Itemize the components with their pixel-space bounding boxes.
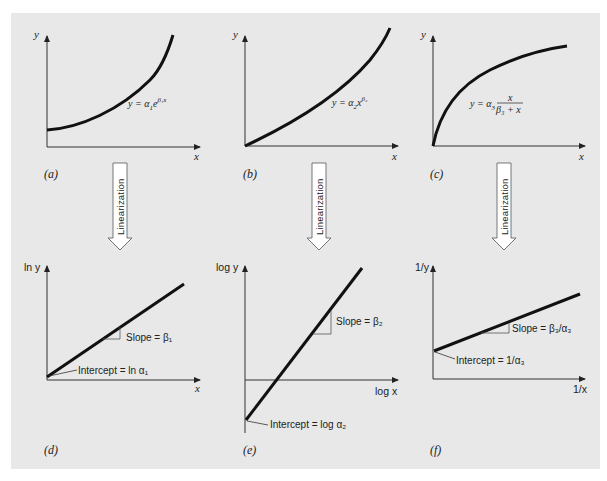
equation: y = α1eβ₁x [127,96,167,112]
intercept-pointer [247,421,268,425]
linearization-diagram: y x y = α1eβ₁x (a) y x y = α2xβ₂ (b) y x… [0,0,607,481]
linear-fit-line [246,268,362,420]
panel-f: 1/y 1/x Slope = β₃/α₃ Intercept = 1/α₃ (… [415,261,588,457]
saturation-curve [433,46,567,146]
x-axis-label: x [194,382,200,394]
y-axis-label: ln y [24,261,41,273]
svg-text:Linearization: Linearization [499,179,510,235]
panel-label: (c) [430,167,443,181]
linearization-arrow-a: Linearization [108,163,132,250]
x-axis-label: x [193,150,199,162]
x-axis-label: log x [375,385,398,397]
panel-label: (d) [44,443,58,457]
equation: y = α3 x β₃ + x [469,92,523,115]
x-axis-label: 1/x [573,383,588,395]
linearization-arrow-b: Linearization [307,163,331,250]
y-axis-label: y [33,28,39,40]
x-axis-label: x [578,150,584,162]
panel-b: y x y = α2xβ₂ (b) [232,28,398,181]
intercept-label: Intercept = log α₂ [270,419,346,430]
svg-text:y = α3: y = α3 [469,98,495,112]
panel-c: y x y = α3 x β₃ + x (c) [420,28,585,181]
slope-label: Slope = β₂ [336,316,383,327]
y-axis-label: log y [216,261,239,273]
power-curve [245,28,390,146]
exponential-curve [47,35,173,130]
intercept-label: Intercept = ln α₁ [78,365,149,376]
panel-label: (a) [44,167,58,181]
y-axis-label: y [420,28,426,40]
panel-label: (e) [243,443,256,457]
linear-fit-line [47,284,184,377]
linearization-arrow-c: Linearization [492,163,516,250]
panel-e: log y log x Slope = β₂ Intercept = log α… [216,261,398,457]
slope-label: Slope = β₁ [126,332,173,343]
panel-d: ln y x Slope = β₁ Intercept = ln α₁ (d) [24,261,200,457]
slope-label: Slope = β₃/α₃ [512,323,571,334]
panel-label: (f) [430,443,441,457]
svg-text:x: x [507,92,513,103]
panel-label: (b) [243,167,257,181]
x-axis-label: x [391,150,397,162]
intercept-pointer [435,352,455,359]
svg-text:Linearization: Linearization [314,179,325,235]
svg-text:β₃ + x: β₃ + x [495,104,521,115]
equation: y = α2xβ₂ [331,95,368,111]
y-axis-label: y [232,28,238,40]
y-axis-label: 1/y [415,261,430,273]
panel-a: y x y = α1eβ₁x (a) [33,28,200,181]
svg-text:Linearization: Linearization [115,179,126,235]
intercept-label: Intercept = 1/α₃ [456,355,525,366]
